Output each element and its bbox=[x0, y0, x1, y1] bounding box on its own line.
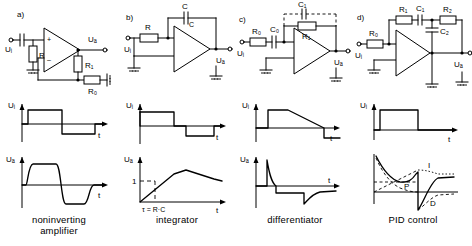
wave-in-y-arrow-a bbox=[20, 104, 25, 110]
ground-symbol-r2-a bbox=[27, 70, 39, 73]
label-i-d: I bbox=[428, 161, 430, 170]
panel-letter-c: c) bbox=[239, 15, 246, 24]
capacitor-c0-c bbox=[272, 36, 276, 48]
wave-in-x-label-d: t bbox=[448, 135, 451, 144]
label-r1-c: R₁ bbox=[302, 32, 311, 41]
resistor-r0-c bbox=[250, 38, 266, 46]
input-terminal-b bbox=[126, 36, 130, 40]
wave-out-trace-c bbox=[256, 160, 336, 204]
label-c2-d: C₂ bbox=[440, 27, 449, 36]
caption-d-line1: PID control bbox=[354, 214, 472, 225]
label-c1-c: C₁ bbox=[298, 0, 307, 9]
wave-out-y-tick-b: 1 bbox=[132, 177, 137, 186]
waveform-input-c: Uᵢ t bbox=[236, 96, 354, 152]
input-terminal-d bbox=[357, 42, 361, 46]
capacitor-c1-d bbox=[418, 15, 422, 25]
waveform-input-a: Uᵢ t bbox=[0, 96, 118, 152]
wave-out-y-label-a: Uₐ bbox=[6, 155, 16, 164]
wave-in-x-label-b: t bbox=[216, 133, 219, 142]
label-r0-d: R₀ bbox=[369, 29, 378, 38]
output-label-d: Uₐ bbox=[454, 60, 464, 69]
caption-c: differentiator bbox=[236, 214, 354, 225]
waveform-output-d: P I D bbox=[354, 152, 472, 214]
opamp-symbol-d bbox=[396, 30, 430, 76]
caption-a-line1: noninverting bbox=[0, 214, 118, 225]
label-c-top-b: C bbox=[182, 2, 188, 11]
circuit-diagram-c: c) R₀ C₀ Uᵢ bbox=[236, 0, 354, 96]
opamp-symbol-c bbox=[294, 28, 330, 74]
ground-symbol-out-c bbox=[330, 68, 342, 81]
output-terminal-a bbox=[103, 48, 107, 52]
ground-symbol-in-b bbox=[128, 56, 140, 71]
wave-out-y-label-c: Uₐ bbox=[240, 155, 250, 164]
output-label-c: Uₐ bbox=[334, 58, 344, 67]
wave-in-x-arrow-c bbox=[334, 126, 340, 131]
wave-out-y-arrow-a bbox=[20, 157, 25, 163]
label-r1-d: R₁ bbox=[399, 5, 408, 14]
column-pid-control: d) R₀ Uᵢ bbox=[354, 0, 472, 246]
waveform-output-a: Uₐ t bbox=[0, 152, 118, 214]
input-terminal-c bbox=[240, 40, 244, 44]
resistor-r1-c bbox=[298, 22, 316, 30]
wave-in-y-arrow-c bbox=[254, 104, 259, 110]
column-integrator: b) R Uᵢ bbox=[118, 0, 236, 246]
waveform-output-b: Uₐ t 1 τ = R·C bbox=[118, 152, 236, 214]
circuit-diagram-b: b) R Uᵢ bbox=[118, 0, 236, 96]
curve-d-decay-d bbox=[376, 158, 418, 192]
resistor-r1-a bbox=[74, 56, 82, 72]
curve-i-component-d bbox=[418, 170, 454, 174]
label-c-side-b: C bbox=[189, 21, 194, 28]
wave-in-y-arrow-d bbox=[372, 104, 377, 110]
wave-out-y-arrow-b bbox=[138, 157, 143, 163]
wave-out-x-arrow-c bbox=[334, 184, 340, 189]
wave-in-y-arrow-b bbox=[138, 104, 143, 110]
output-terminal-c bbox=[346, 49, 350, 53]
resistor-r0-a bbox=[84, 76, 100, 84]
caption-c-line1: differentiator bbox=[236, 214, 354, 225]
column-differentiator: c) R₀ C₀ Uᵢ bbox=[236, 0, 354, 246]
label-r-b: R bbox=[145, 23, 151, 32]
opamp-symbol-b bbox=[174, 26, 210, 72]
label-r2-d: R₂ bbox=[443, 5, 452, 14]
label-r0-c: R₀ bbox=[252, 27, 261, 36]
opamp-circuits-figure: a) Uᵢ R₂ bbox=[0, 0, 472, 246]
wave-in-y-label-c: Uᵢ bbox=[242, 101, 249, 110]
panel-letter-d: d) bbox=[357, 13, 364, 22]
wave-in-y-label-b: Uᵢ bbox=[126, 101, 133, 110]
capacitor-c2-d bbox=[426, 28, 438, 32]
wave-out-y-label-b: Uₐ bbox=[124, 155, 134, 164]
label-r0-a: R₀ bbox=[88, 87, 97, 96]
tau-label-b: τ = R·C bbox=[142, 206, 165, 213]
label-r1-a: R₁ bbox=[85, 61, 94, 70]
wave-out-x-arrow-b bbox=[220, 200, 226, 205]
input-label-b: Uᵢ bbox=[124, 45, 131, 54]
caption-a-line2: amplifier bbox=[0, 225, 118, 236]
ground-symbol-out-b bbox=[210, 66, 222, 79]
wave-out-x-label-c: t bbox=[328, 176, 331, 185]
caption-d: PID control bbox=[354, 214, 472, 225]
resistor-r0-d bbox=[367, 40, 383, 48]
output-terminal-b bbox=[228, 47, 232, 51]
opamp-plus-input-a: + bbox=[47, 36, 51, 43]
panel-letter-b: b) bbox=[126, 13, 133, 22]
wave-out-x-label-a: t bbox=[98, 191, 101, 200]
wave-in-x-label-a: t bbox=[98, 131, 101, 140]
wave-out-trace-a bbox=[22, 164, 104, 204]
wave-out-y-arrow-c bbox=[254, 157, 259, 163]
ground-symbol-in-d bbox=[368, 60, 380, 73]
resistor-r-b bbox=[140, 34, 158, 42]
curve-d-component-d bbox=[418, 194, 454, 210]
wave-in-trace-c bbox=[256, 110, 340, 138]
input-label-c: Uᵢ bbox=[237, 49, 244, 58]
output-label-b: Uₐ bbox=[216, 56, 226, 65]
waveform-input-d: Uᵢ t bbox=[354, 96, 472, 152]
ground-symbol-in-c bbox=[260, 58, 272, 73]
wave-in-trace-b bbox=[140, 112, 222, 136]
wave-in-y-label-d: Uᵢ bbox=[360, 101, 367, 110]
output-terminal-d bbox=[468, 51, 472, 55]
circuit-diagram-a: a) Uᵢ R₂ bbox=[0, 0, 118, 96]
label-d-d: D bbox=[430, 199, 436, 208]
ground-symbol-out-d bbox=[456, 72, 468, 85]
resistor-r1-d bbox=[396, 16, 412, 24]
wave-out-trace-b bbox=[140, 170, 222, 202]
